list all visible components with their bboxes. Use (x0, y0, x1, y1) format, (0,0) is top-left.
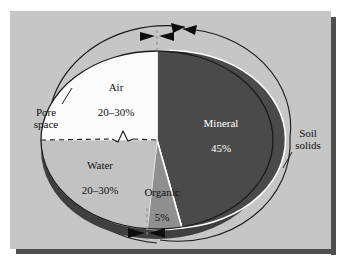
figure-root: Air 20–30% Mineral 45% Water 20–30% Orga… (0, 0, 343, 268)
pore-space-arrowhead (171, 23, 185, 33)
arrowhead-right-top (159, 32, 174, 41)
arrowhead-left-top (140, 32, 155, 41)
top-division-marker (140, 30, 174, 52)
soil-solids-arrowhead (183, 25, 197, 35)
pie-slice-water (41, 140, 157, 229)
soil-composition-pie-chart (0, 0, 343, 268)
pie-slice-mineral (157, 50, 286, 228)
bracket-arrowheads (171, 23, 197, 35)
pie-slice-air (41, 51, 157, 140)
